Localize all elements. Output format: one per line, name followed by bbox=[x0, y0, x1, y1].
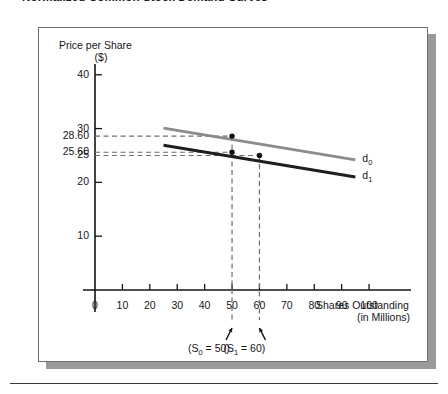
curve-label-d1: d1 bbox=[362, 169, 372, 184]
curve-label-d0: d0 bbox=[362, 152, 372, 167]
bottom-divider bbox=[10, 383, 438, 384]
s1-annotation: (S1 = 60) bbox=[223, 342, 265, 357]
x-tick-label: 100 bbox=[349, 299, 389, 311]
y-tick-label: 20 bbox=[49, 175, 89, 187]
figure-title: Normalized Common Stock Demand Curves bbox=[22, 0, 268, 3]
x-axis-ticks bbox=[122, 284, 369, 290]
annotation-prefix: (S bbox=[188, 342, 199, 354]
y-axis-title-text: Price per Share bbox=[59, 39, 132, 51]
y-axis-title: Price per Share ($) bbox=[59, 39, 143, 63]
plot-area: Price per Share ($) Shares Outstanding (… bbox=[39, 28, 429, 363]
curve-label-subscript: 1 bbox=[368, 175, 372, 184]
annotation-arrows bbox=[226, 328, 265, 340]
y-tick-label: 40 bbox=[49, 68, 89, 80]
y-axis-title-unit: ($) bbox=[59, 51, 143, 63]
y-value-label: 28.60 bbox=[39, 129, 89, 141]
annotation-prefix: (S bbox=[223, 342, 234, 354]
x-axis-title-unit: (in Millions) bbox=[316, 311, 410, 323]
vertical-guide-lines bbox=[232, 136, 259, 320]
chart-panel: Price per Share ($) Shares Outstanding (… bbox=[38, 27, 428, 362]
data-point-markers bbox=[229, 133, 262, 158]
annotation-suffix: = 60) bbox=[238, 342, 265, 354]
y-tick-label: 10 bbox=[49, 229, 89, 241]
curve-label-subscript: 0 bbox=[368, 158, 372, 167]
y-value-label: 25 bbox=[39, 148, 89, 160]
